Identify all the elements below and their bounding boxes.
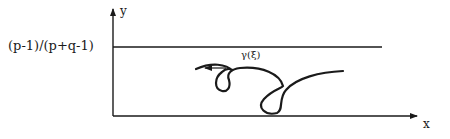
x-axis-label: x <box>423 117 430 131</box>
gamma-curve <box>196 65 343 114</box>
level-line-label: (p-1)/(p+q-1) <box>8 38 94 53</box>
y-axis-label: y <box>120 4 127 18</box>
curve-label: γ(ξ) <box>241 49 260 60</box>
diagram: (p-1)/(p+q-1) y x γ(ξ) <box>0 0 450 139</box>
diagram-canvas <box>0 0 450 139</box>
